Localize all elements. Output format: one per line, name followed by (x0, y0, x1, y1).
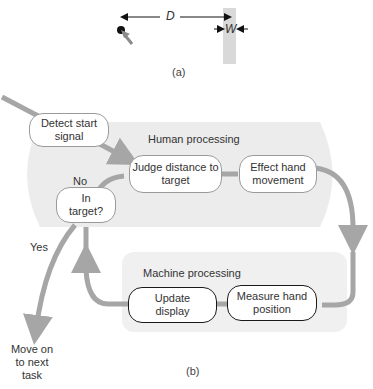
distance-label: D (166, 9, 175, 23)
target-bar (223, 8, 236, 64)
terminal-next-task: Move on to next task (6, 343, 58, 382)
branch-yes-label: Yes (30, 241, 48, 253)
node-in-target: In target? (56, 187, 116, 223)
caption-b: (b) (186, 365, 199, 377)
node-effect-hand-movement: Effect hand movement (239, 155, 317, 193)
diagram-graphics (0, 0, 373, 389)
pointer-arrow-icon (121, 30, 132, 44)
arrow-update-up (86, 258, 128, 304)
width-label: W (225, 22, 236, 36)
branch-no-label: No (73, 175, 87, 187)
machine-processing-label: Machine processing (143, 267, 241, 279)
node-judge-distance: Judge distance to target (129, 155, 222, 193)
node-update-display: Update display (128, 287, 217, 323)
caption-a: (a) (172, 66, 185, 78)
human-processing-label: Human processing (148, 133, 240, 145)
node-detect-start-signal: Detect start signal (29, 113, 109, 147)
node-measure-hand-position: Measure hand position (227, 285, 317, 321)
